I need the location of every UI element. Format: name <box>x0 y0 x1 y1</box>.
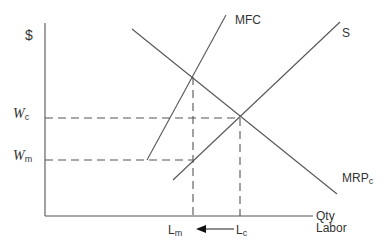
y-axis-label: $ <box>25 28 33 42</box>
lm-label: Lm <box>168 224 182 238</box>
mrp-label: MRPc <box>342 172 373 186</box>
wm-label: Wm <box>13 149 32 164</box>
mfc-label: MFC <box>235 14 261 26</box>
arrow-lc-to-lm <box>196 225 234 233</box>
wc-label: Wc <box>13 107 29 122</box>
mfc-curve <box>147 15 226 160</box>
supply-curve <box>173 22 340 180</box>
supply-label: S <box>342 27 350 39</box>
lc-label: Lc <box>236 224 247 238</box>
x-axis-label: QtyLabor <box>316 210 347 234</box>
